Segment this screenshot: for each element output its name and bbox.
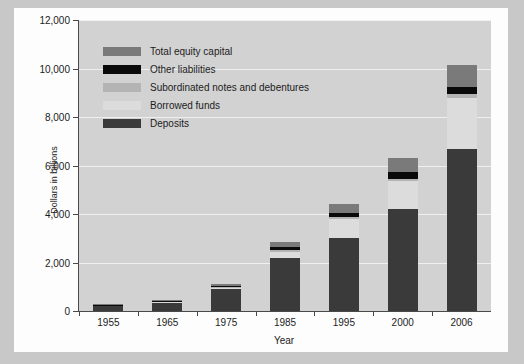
- bar-segment: [211, 286, 241, 287]
- x-tick-mark: [432, 311, 433, 316]
- x-tick-mark: [79, 311, 80, 316]
- bar-1995: [329, 204, 359, 311]
- x-tick-mark: [373, 311, 374, 316]
- bar-1955: [93, 305, 123, 311]
- bar-segment: [329, 217, 359, 219]
- x-tick-mark: [256, 311, 257, 316]
- bar-segment: [388, 181, 418, 209]
- gridline: [79, 20, 491, 21]
- legend-swatch-icon: [103, 119, 141, 128]
- bar-segment: [270, 258, 300, 311]
- bar-segment: [270, 242, 300, 246]
- bar-segment: [447, 94, 477, 98]
- plot-area: Total equity capitalOther liabilitiesSub…: [78, 20, 491, 312]
- legend-item: Deposits: [103, 118, 309, 129]
- bar-segment: [270, 252, 300, 258]
- legend-item: Borrowed funds: [103, 100, 309, 111]
- legend-label: Total equity capital: [150, 46, 232, 57]
- legend-label: Subordinated notes and debentures: [150, 82, 309, 93]
- x-tick-label: 1985: [274, 317, 296, 328]
- y-tick-label: 0: [64, 306, 70, 317]
- legend-item: Total equity capital: [103, 46, 309, 57]
- bar-segment: [447, 98, 477, 149]
- y-tick-label: 8,000: [45, 112, 70, 123]
- x-tick-mark: [138, 311, 139, 316]
- y-tick-mark: [73, 214, 79, 215]
- bar-segment: [329, 219, 359, 238]
- bar-segment: [388, 209, 418, 311]
- bar-1985: [270, 242, 300, 311]
- bar-segment: [93, 306, 123, 311]
- x-axis-title: Year: [78, 335, 490, 346]
- x-tick-label: 1975: [215, 317, 237, 328]
- x-tick-mark: [197, 311, 198, 316]
- y-tick-label: 2,000: [45, 257, 70, 268]
- x-tick-label: 1965: [156, 317, 178, 328]
- bar-segment: [388, 179, 418, 181]
- bar-2006: [447, 65, 477, 311]
- bar-segment: [447, 149, 477, 311]
- legend-swatch-icon: [103, 101, 141, 110]
- x-tick-label: 2000: [392, 317, 414, 328]
- y-tick-mark: [73, 263, 79, 264]
- bar-2000: [388, 158, 418, 311]
- y-tick-label: 4,000: [45, 209, 70, 220]
- y-tick-mark: [73, 166, 79, 167]
- bar-1965: [152, 301, 182, 311]
- legend-swatch-icon: [103, 83, 141, 92]
- bar-segment: [152, 303, 182, 311]
- legend-label: Deposits: [150, 118, 189, 129]
- x-tick-label: 1955: [97, 317, 119, 328]
- bar-segment: [93, 304, 123, 305]
- bar-segment: [447, 87, 477, 94]
- bar-segment: [329, 204, 359, 212]
- x-tick-mark: [314, 311, 315, 316]
- y-tick-mark: [73, 69, 79, 70]
- legend-swatch-icon: [103, 47, 141, 56]
- chart-legend: Total equity capitalOther liabilitiesSub…: [103, 46, 309, 129]
- y-tick-mark: [73, 311, 79, 312]
- bar-segment: [270, 247, 300, 251]
- legend-item: Subordinated notes and debentures: [103, 82, 309, 93]
- y-tick-mark: [73, 117, 79, 118]
- bar-segment: [388, 158, 418, 171]
- x-tick-label: 1995: [333, 317, 355, 328]
- bar-segment: [447, 65, 477, 87]
- y-tick-label: 12,000: [39, 15, 70, 26]
- x-tick-label: 2006: [450, 317, 472, 328]
- gridline: [79, 214, 491, 215]
- bar-segment: [152, 300, 182, 301]
- bar-segment: [211, 284, 241, 286]
- chart-figure: Dollars in billions Total equity capital…: [14, 8, 508, 352]
- bar-segment: [211, 288, 241, 289]
- gridline: [79, 166, 491, 167]
- y-tick-mark: [73, 20, 79, 21]
- bar-segment: [211, 289, 241, 311]
- bar-1975: [211, 284, 241, 311]
- bar-segment: [388, 172, 418, 179]
- bar-segment: [329, 213, 359, 217]
- y-tick-label: 10,000: [39, 63, 70, 74]
- y-tick-label: 6,000: [45, 160, 70, 171]
- legend-swatch-icon: [103, 65, 141, 74]
- bar-segment: [270, 250, 300, 251]
- y-axis-title: Dollars in billions: [49, 146, 59, 214]
- bar-segment: [329, 238, 359, 311]
- legend-label: Borrowed funds: [150, 100, 220, 111]
- legend-item: Other liabilities: [103, 64, 309, 75]
- legend-label: Other liabilities: [150, 64, 216, 75]
